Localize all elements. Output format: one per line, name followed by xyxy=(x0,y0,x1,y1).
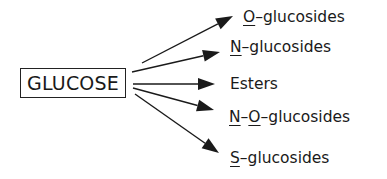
arrow-head-esters xyxy=(198,78,215,90)
arrow-shaft-n-glucosides xyxy=(132,56,203,72)
label-s-glucosides: S–glucosides xyxy=(230,149,329,167)
label-part: N xyxy=(230,38,242,56)
label-part: –glucosides xyxy=(240,149,330,167)
label-part: –glucosides xyxy=(261,108,351,126)
arrow-head-s-glucosides xyxy=(202,138,219,153)
arrow-shaft-n-o-glucosides xyxy=(133,88,198,106)
label-o-glucosides: O–glucosides xyxy=(243,8,345,26)
arrow-head-o-glucosides xyxy=(215,16,233,29)
label-part: –glucosides xyxy=(242,38,332,56)
label-part: S xyxy=(230,149,240,167)
arrow-head-n-o-glucosides xyxy=(196,100,214,112)
label-part: –glucosides xyxy=(255,8,345,26)
glucose-box: GLUCOSE xyxy=(20,68,126,98)
label-part: O xyxy=(243,8,255,26)
label-part: Esters xyxy=(230,75,278,93)
arrow-head-n-glucosides xyxy=(202,50,220,62)
arrow-shaft-s-glucosides xyxy=(135,94,205,143)
glucose-label: GLUCOSE xyxy=(27,72,119,94)
label-part: N xyxy=(229,108,241,126)
label-n-o-glucosides: N–O–glucosides xyxy=(229,108,350,126)
label-n-glucosides: N–glucosides xyxy=(230,38,331,56)
label-part: O xyxy=(248,108,260,126)
label-esters: Esters xyxy=(230,75,278,93)
